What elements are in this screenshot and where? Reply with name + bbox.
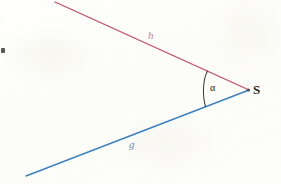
angle-arc <box>203 71 207 107</box>
vertex-s-label: S <box>253 83 260 96</box>
ray-g-label: g <box>129 139 135 150</box>
ray-h-label: h <box>148 30 154 41</box>
geometry-figure-canvas: h g α S <box>0 0 281 184</box>
angle-alpha-label: α <box>210 83 215 93</box>
angle-diagram-svg <box>0 0 281 184</box>
ray-h-line <box>55 2 249 90</box>
page-edge-speck <box>1 48 5 53</box>
ray-g-line <box>26 90 249 176</box>
vertex-point-s <box>247 88 250 91</box>
